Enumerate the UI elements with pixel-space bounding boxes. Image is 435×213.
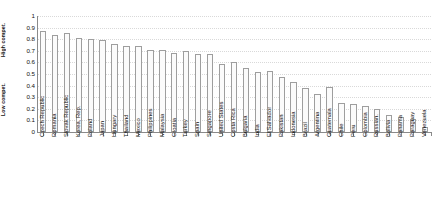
x-tick-label: Croatia — [171, 118, 178, 137]
x-tick-label: Guatemala — [326, 108, 333, 137]
x-tick-label: Turkey — [182, 119, 189, 137]
y-tick-label: 0.6 — [1, 59, 35, 65]
bar — [195, 54, 201, 132]
x-tick-label: Philippines — [147, 109, 154, 138]
y-tick-label: 0.2 — [1, 106, 35, 112]
x-tick-label: United States — [218, 102, 225, 137]
y-tick-label: 0.7 — [1, 48, 35, 54]
bar — [255, 72, 261, 132]
x-tick-label: Hungary — [111, 115, 118, 137]
x-tick-label: India — [254, 124, 261, 137]
y-tick-label: 0.8 — [1, 36, 35, 42]
x-tick-label: Slovak Republic — [63, 95, 70, 137]
x-tick-label: Mexico — [135, 118, 142, 137]
x-tick-label: Pakistan — [278, 114, 285, 137]
y-tick-label: 0.4 — [1, 83, 35, 89]
x-tick-label: Spain — [194, 122, 201, 137]
x-tick-label: Peru — [350, 125, 357, 137]
y-axis-line — [37, 16, 38, 133]
y-tick-label: 1 — [1, 13, 35, 19]
bar — [99, 40, 105, 132]
x-tick-label: Bulgaria — [242, 115, 249, 137]
x-tick-label: Indonesia — [290, 111, 297, 137]
y-tick-label: 0.3 — [1, 94, 35, 100]
x-tick-label: Malaysia — [159, 114, 166, 137]
bar-chart: High compet. Low compet. 10.90.80.70.60.… — [0, 0, 435, 213]
x-tick-label: Japan — [99, 121, 106, 137]
y-tick-label: 0.1 — [1, 117, 35, 123]
x-tick-label: Costa Rica — [230, 108, 237, 137]
x-tick-label: Poland — [87, 119, 94, 137]
x-tick-label: El Salvador — [266, 107, 273, 137]
x-tick — [431, 132, 432, 136]
x-tick-label: Czech Republic — [39, 96, 46, 137]
x-tick-label: Chile — [338, 124, 345, 137]
gridline — [37, 51, 431, 52]
y-tick-label: 0.9 — [1, 25, 35, 31]
gridline — [37, 16, 431, 17]
x-tick-label: Colombia — [362, 112, 369, 137]
gridline — [37, 28, 431, 29]
y-tick-label: 0 — [1, 129, 35, 135]
x-tick-label: Panama — [397, 115, 404, 137]
x-tick-label: Romania — [51, 113, 58, 137]
x-tick-label: Argentina — [314, 112, 321, 137]
x-tick-label: Paraguay — [409, 112, 416, 137]
x-tick-label: Thailand — [123, 114, 130, 137]
y-axis-ticks: 10.90.80.70.60.50.40.30.20.10 — [0, 16, 35, 133]
x-tick-label: Singapore — [206, 110, 213, 137]
y-tick-label: 0.5 — [1, 71, 35, 77]
x-tick-label: Venezuela — [421, 109, 428, 137]
x-tick-label: Brazil — [302, 122, 309, 137]
gridline — [37, 39, 431, 40]
x-tick-label: Bolivia — [385, 120, 392, 137]
x-tick-label: Korea, Rep. — [75, 106, 82, 137]
x-tick-label: Russian. — [373, 114, 380, 137]
x-axis-labels: Czech RepublicRomaniaSlovak RepublicKore… — [37, 137, 432, 213]
